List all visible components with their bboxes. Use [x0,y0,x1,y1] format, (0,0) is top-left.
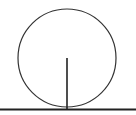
tangent-circle-diagram [0,0,136,115]
